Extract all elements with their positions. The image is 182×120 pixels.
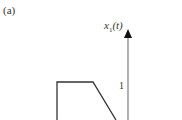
y-axis-arrow-icon (124, 29, 132, 38)
plot-canvas (0, 0, 182, 120)
signal-trapezoid (57, 82, 116, 120)
